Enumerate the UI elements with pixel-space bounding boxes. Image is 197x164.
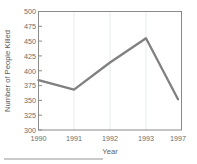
y-tick-label-500: 500	[24, 7, 36, 16]
y-tick-label-475: 475	[24, 22, 36, 31]
x-axis-tick-labels: 1990 1991 1992 1993 1997	[31, 134, 187, 143]
y-tick-label-450: 450	[24, 37, 36, 46]
x-tick-label-1997: 1997	[170, 134, 186, 143]
y-tick-label-350: 350	[24, 96, 36, 105]
line-chart: 500 475 450 425 400 375 350 325 300 1990…	[0, 0, 197, 164]
y-tick-label-400: 400	[24, 67, 36, 76]
y-tick-label-375: 375	[24, 81, 36, 90]
y-tick-label-425: 425	[24, 52, 36, 61]
x-tick-label-1991: 1991	[66, 134, 82, 143]
y-tick-label-325: 325	[24, 111, 36, 120]
chart-figure: 500 475 450 425 400 375 350 325 300 1990…	[0, 0, 197, 164]
x-tick-label-1992: 1992	[102, 134, 118, 143]
x-tick-label-1990: 1990	[31, 134, 47, 143]
y-axis-title: Number of People Killed	[3, 30, 12, 112]
x-tick-label-1993: 1993	[138, 134, 154, 143]
y-axis-tick-labels: 500 475 450 425 400 375 350 325 300	[24, 7, 36, 135]
x-axis-title: Year	[102, 147, 118, 156]
